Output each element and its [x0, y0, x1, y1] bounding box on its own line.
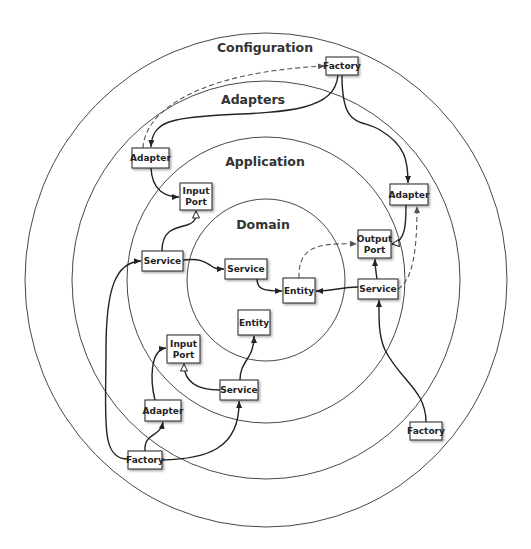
node-adapter-bottom: Adapter — [143, 400, 184, 421]
node-label: Adapter — [389, 190, 430, 200]
node-label: Service — [227, 264, 264, 274]
dependency-dashed-entity-output-port — [299, 244, 357, 278]
node-label: Service — [359, 284, 396, 294]
node-output-port: OutputPort — [357, 230, 393, 258]
ring-label-adapters: Adapters — [221, 92, 285, 107]
ring-adapters — [72, 81, 460, 479]
rings — [25, 33, 507, 527]
node-label: Port — [185, 197, 207, 207]
edge-service-bottom-to-entity — [240, 336, 254, 380]
node-entity-bottom: Entity — [238, 310, 270, 335]
node-adapter-left: Adapter — [130, 148, 171, 168]
edge-service-right-to-output-port — [375, 259, 377, 279]
node-label: Service — [220, 385, 257, 395]
ring-label-domain: Domain — [236, 217, 290, 232]
node-label: Entity — [284, 286, 314, 296]
edge-service-implements-input-port — [162, 211, 196, 251]
node-entity-center: Entity — [283, 278, 315, 303]
node-service-app-bottom: Service — [220, 380, 258, 400]
hexagonal-architecture-diagram: Configuration Adapters Application Domai… — [0, 0, 531, 549]
ring-label-application: Application — [225, 154, 305, 169]
node-label: Input — [183, 186, 211, 196]
node-factory-bottom-left: Factory — [126, 451, 164, 469]
node-label: Factory — [407, 426, 445, 436]
node-input-port-top: InputPort — [180, 183, 212, 210]
ring-label-configuration: Configuration — [217, 40, 313, 55]
node-label: Output — [357, 234, 393, 244]
dependency-dashed-service-adapter-right — [398, 206, 417, 289]
edge-service-bottom-implements-input-port — [184, 364, 220, 390]
node-label: Port — [364, 245, 386, 255]
edge-factory-to-adapter-right — [342, 75, 408, 183]
node-label: Service — [144, 256, 181, 266]
node-adapter-right: Adapter — [389, 184, 430, 205]
node-label: Input — [170, 339, 198, 349]
boxes: FactoryAdapterAdapterInputPortServiceSer… — [126, 57, 445, 469]
node-label: Adapter — [143, 406, 184, 416]
node-service-app-left: Service — [142, 251, 183, 271]
node-label: Entity — [239, 318, 269, 328]
node-service-domain: Service — [225, 259, 267, 279]
edge-adapter-bottom-to-input-port — [152, 348, 166, 400]
ring-configuration — [25, 33, 507, 527]
edge-factory-left-to-service-left — [105, 261, 141, 459]
edge-factory-right-to-service-right — [379, 300, 426, 422]
node-factory-top: Factory — [323, 57, 361, 75]
node-service-app-right: Service — [358, 279, 398, 299]
node-factory-bottom-right: Factory — [407, 422, 445, 440]
node-input-port-bottom: InputPort — [167, 335, 200, 363]
node-label: Port — [173, 350, 195, 360]
node-label: Adapter — [130, 153, 171, 163]
edge-service-right-to-entity — [316, 287, 358, 291]
node-label: Factory — [323, 61, 361, 71]
node-label: Factory — [126, 455, 164, 465]
edge-domain-service-to-entity — [257, 279, 282, 291]
